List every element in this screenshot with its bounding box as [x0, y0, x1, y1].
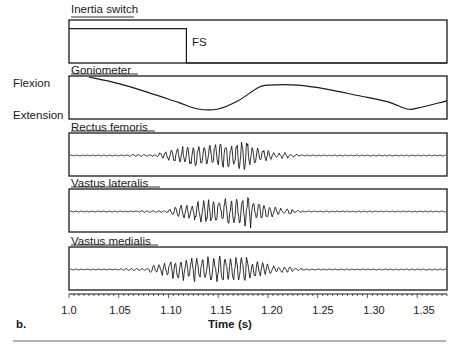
goniometer-trace — [89, 77, 447, 110]
vastus-lateralis-emg-trace — [70, 198, 446, 229]
x-axis — [69, 294, 447, 298]
panel-frame-inertia — [69, 20, 447, 63]
inertia-switch-trace — [69, 29, 447, 63]
signal-traces — [69, 29, 447, 282]
panel-frame-rf — [69, 133, 447, 176]
chart-canvas — [0, 0, 459, 347]
vastus-medialis-emg-trace — [70, 256, 446, 282]
rectus-femoris-emg-trace — [70, 142, 446, 169]
panel-frame-gonio — [69, 76, 447, 119]
